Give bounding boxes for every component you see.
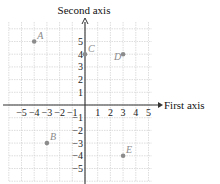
x-tick-label: 2	[108, 107, 113, 118]
y-tick-label: −1	[72, 112, 83, 123]
y-tick-label: −5	[72, 163, 83, 174]
point-label: C	[88, 43, 95, 54]
x-axis-arrow-icon	[158, 102, 163, 108]
x-tick-label: −5	[16, 107, 27, 118]
y-axis-label: Second axis	[58, 4, 111, 16]
y-tick-label: −2	[72, 125, 83, 136]
point-marker	[121, 154, 126, 159]
x-tick-label: −2	[54, 107, 65, 118]
point-marker	[121, 52, 126, 57]
point-d: D	[113, 51, 125, 62]
x-tick-label: 4	[133, 107, 138, 118]
y-tick-label: −4	[72, 150, 83, 161]
x-tick-label: 5	[146, 107, 151, 118]
y-tick-label: 3	[78, 61, 83, 72]
coordinate-plane: −5−4−3−2−11234554321−1−2−3−4−5 ABCDE Fir…	[0, 0, 220, 184]
x-tick-label: 3	[121, 107, 126, 118]
y-tick-label: 4	[78, 49, 83, 60]
point-label: D	[113, 51, 122, 62]
point-label: B	[50, 131, 56, 142]
point-label: E	[125, 144, 132, 155]
axes	[3, 18, 163, 184]
point-marker	[45, 141, 50, 146]
point-marker	[83, 52, 88, 57]
y-tick-label: 1	[78, 87, 83, 98]
x-tick-label: −3	[42, 107, 53, 118]
point-label: A	[36, 30, 44, 41]
y-tick-label: 2	[78, 74, 83, 85]
x-tick-label: 1	[95, 107, 100, 118]
point-marker	[32, 39, 37, 44]
x-tick-label: −4	[29, 107, 40, 118]
y-tick-label: 5	[78, 36, 83, 47]
x-axis-label: First axis	[164, 99, 205, 111]
y-tick-label: −3	[72, 138, 83, 149]
